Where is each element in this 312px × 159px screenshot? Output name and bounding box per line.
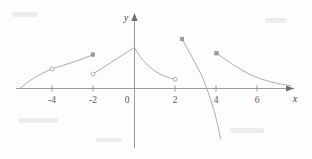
graph-figure: -4 -2 0 2 4 6 x y	[0, 0, 312, 159]
x-tick-label--4: -4	[48, 95, 56, 105]
x-tick-label-4: 4	[214, 95, 219, 105]
curve-branch-2	[91, 48, 134, 77]
coordinate-plot: -4 -2 0 2 4 6 x y	[0, 0, 312, 159]
x-axis-label: x	[292, 94, 298, 104]
x-tick-label-2: 2	[173, 95, 178, 105]
x-tick-label--2: -2	[89, 95, 97, 105]
curve-branch-1	[20, 53, 95, 89]
y-axis	[131, 13, 137, 148]
x-tick-label-6: 6	[255, 95, 260, 105]
y-axis-label: y	[123, 13, 129, 23]
curve-branch-5	[215, 51, 291, 85]
curve-branch-3	[135, 48, 178, 82]
x-axis	[16, 85, 294, 91]
origin-label: 0	[125, 95, 130, 105]
scan-artifacts	[12, 12, 287, 142]
